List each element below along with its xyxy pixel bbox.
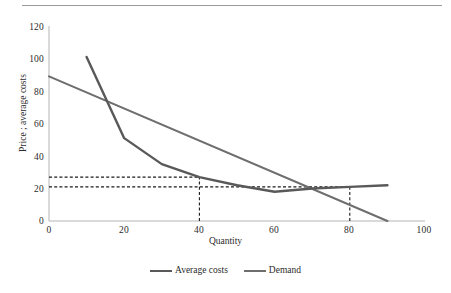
legend-item-demand: Demand <box>244 266 301 276</box>
x-tick-label-20: 20 <box>109 225 139 235</box>
chart-legend: Average costs Demand <box>0 266 451 276</box>
y-tick-label-20: 20 <box>18 184 44 194</box>
y-tick-label-120: 120 <box>18 22 44 32</box>
legend-swatch-average-costs <box>150 270 172 272</box>
x-tick-label-100: 100 <box>409 225 439 235</box>
x-tick-label-40: 40 <box>184 225 214 235</box>
plot-canvas <box>0 0 451 293</box>
demand-curve <box>49 76 387 221</box>
average-costs-curve <box>87 57 388 192</box>
economics-line-chart: 0 20 40 60 80 100 120 0 20 40 60 80 100 … <box>0 0 451 293</box>
x-tick-label-80: 80 <box>334 225 364 235</box>
legend-label-average-costs: Average costs <box>175 266 228 276</box>
legend-item-average-costs: Average costs <box>150 266 228 276</box>
x-axis-title: Quantity <box>0 236 451 246</box>
x-tick-label-0: 0 <box>34 225 64 235</box>
legend-swatch-demand <box>244 270 266 272</box>
x-tick-label-60: 60 <box>259 225 289 235</box>
y-axis-title: Price ; average costs <box>18 53 28 173</box>
legend-label-demand: Demand <box>269 266 301 276</box>
